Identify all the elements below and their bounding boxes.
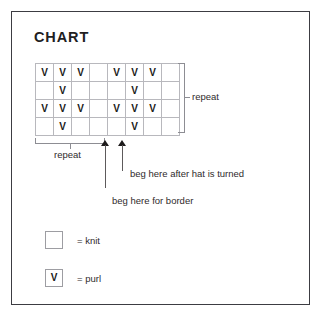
- chart-cell-purl: V: [144, 100, 162, 118]
- beg-turned-label: beg here after hat is turned: [130, 168, 244, 180]
- beg-border-arrow-icon: [101, 140, 110, 188]
- chart-cell-knit: [162, 100, 180, 118]
- arrow-shaft: [122, 145, 123, 171]
- chart-cell-knit: [162, 118, 180, 136]
- chart-cell-knit: [72, 82, 90, 100]
- chart-cell-purl: V: [108, 100, 126, 118]
- beg-border-label: beg here for border: [112, 195, 193, 207]
- chart-cell-purl: V: [54, 118, 72, 136]
- chart-cell-knit: [144, 82, 162, 100]
- chart-cell-knit: [90, 100, 108, 118]
- chart-page-frame: CHART VVVVVVVVVVVVVVVV repeat repeat beg…: [11, 11, 310, 305]
- chart-cell-knit: [144, 118, 162, 136]
- chart-cell-knit: [108, 118, 126, 136]
- chart-cell-knit: [162, 82, 180, 100]
- vertical-repeat-label: repeat: [192, 91, 219, 103]
- chart-cell-knit: [72, 118, 90, 136]
- chart-row: VV: [36, 82, 180, 100]
- chart-cell-purl: V: [36, 64, 54, 82]
- chart-row: VV: [36, 118, 180, 136]
- legend-label-knit: = knit: [77, 235, 100, 246]
- chart-cell-purl: V: [54, 82, 72, 100]
- legend-label-purl: = purl: [77, 273, 101, 284]
- chart-cell-purl: V: [54, 64, 72, 82]
- chart-cell-purl: V: [108, 64, 126, 82]
- chart-cell-purl: V: [54, 100, 72, 118]
- arrow-shaft: [105, 145, 106, 188]
- legend-item-knit: = knit: [45, 231, 101, 249]
- horizontal-repeat-label: repeat: [54, 149, 81, 161]
- chart-cell-knit: [90, 64, 108, 82]
- chart-cell-purl: V: [36, 100, 54, 118]
- beg-turned-arrow-icon: [118, 140, 127, 171]
- chart-cell-purl: V: [72, 100, 90, 118]
- chart-cell-purl: V: [126, 100, 144, 118]
- chart-cell-purl: V: [126, 82, 144, 100]
- chart-cell-purl: V: [126, 118, 144, 136]
- chart-cell-knit: [90, 118, 108, 136]
- chart-cell-purl: V: [144, 64, 162, 82]
- chart-cell-knit: [162, 64, 180, 82]
- chart-cell-knit: [36, 82, 54, 100]
- chart-cell-knit: [108, 82, 126, 100]
- chart-cell-knit: [90, 82, 108, 100]
- legend-item-purl: V = purl: [45, 269, 101, 287]
- vertical-repeat-bracket: [178, 63, 185, 133]
- chart-cell-knit: [36, 118, 54, 136]
- chart-cell-purl: V: [126, 64, 144, 82]
- knitting-chart-grid: VVVVVVVVVVVVVVVV: [35, 63, 180, 136]
- chart-grid-body: VVVVVVVVVVVVVVVV: [36, 64, 180, 136]
- vertical-repeat-tick: [185, 97, 190, 98]
- purl-swatch-icon: V: [45, 269, 63, 287]
- chart-row: VVVVVV: [36, 100, 180, 118]
- legend: = knit V = purl: [45, 231, 101, 307]
- page-title: CHART: [34, 30, 89, 45]
- knit-swatch-icon: [45, 231, 63, 249]
- chart-cell-purl: V: [72, 64, 90, 82]
- chart-row: VVVVVV: [36, 64, 180, 82]
